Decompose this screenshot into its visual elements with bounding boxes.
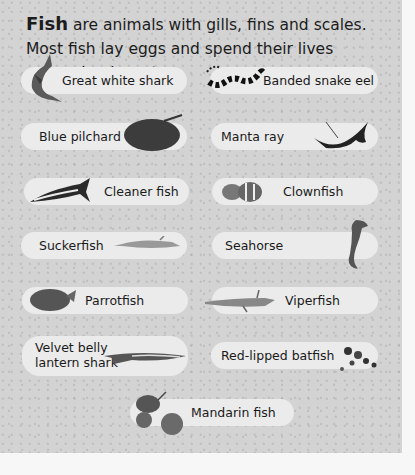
clownfish-icon	[220, 180, 264, 204]
seahorse-icon	[338, 218, 374, 272]
lantern-shark-icon	[102, 348, 188, 366]
cleaner-fish-icon	[28, 178, 92, 204]
mandarin-fish-icon	[128, 390, 186, 436]
intro-bold: Fish	[26, 13, 68, 34]
parrotfish-icon	[26, 286, 78, 314]
pilchard-icon	[120, 113, 184, 155]
batfish-icon	[328, 343, 384, 375]
viperfish-icon	[203, 290, 279, 314]
manta-ray-icon	[312, 120, 372, 152]
fish-panel: Fish are animals with gills, fins and sc…	[0, 0, 402, 453]
snake-eel-icon	[203, 62, 265, 88]
suckerfish-icon	[112, 236, 182, 252]
shark-icon	[22, 52, 72, 104]
